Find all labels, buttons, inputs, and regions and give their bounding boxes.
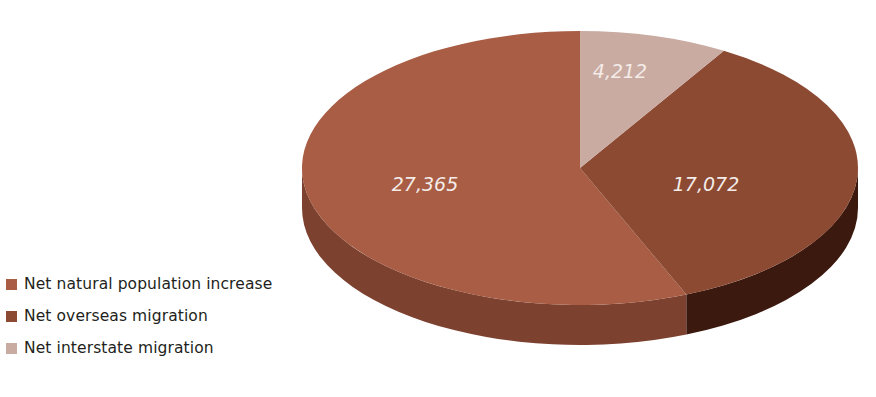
pie-chart-figure: 27,365 17,072 4,212 Net natural populati… bbox=[0, 0, 876, 397]
legend-item-overseas[interactable]: Net overseas migration bbox=[6, 300, 296, 332]
chart-legend: Net natural population increase Net over… bbox=[6, 268, 296, 364]
pie-top-face bbox=[302, 31, 858, 305]
legend-label-natural: Net natural population increase bbox=[24, 275, 272, 293]
legend-swatch-interstate bbox=[6, 343, 17, 354]
legend-item-interstate[interactable]: Net interstate migration bbox=[6, 332, 296, 364]
pie-label-natural: 27,365 bbox=[392, 173, 458, 195]
legend-label-interstate: Net interstate migration bbox=[24, 339, 214, 357]
legend-label-overseas: Net overseas migration bbox=[24, 307, 208, 325]
legend-swatch-overseas bbox=[6, 311, 17, 322]
legend-item-natural[interactable]: Net natural population increase bbox=[6, 268, 296, 300]
pie-label-interstate: 4,212 bbox=[593, 60, 647, 82]
pie-label-overseas: 17,072 bbox=[673, 173, 739, 195]
legend-swatch-natural bbox=[6, 279, 17, 290]
